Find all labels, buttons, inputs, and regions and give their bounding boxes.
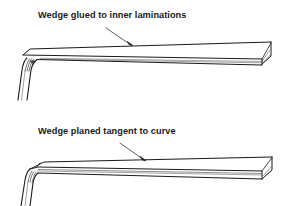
top-leader-line [106, 28, 131, 45]
bottom-wedge-board [21, 143, 272, 206]
laminated-wedge-drawing [0, 0, 285, 206]
top-wedge-board [18, 28, 271, 100]
bottom-leader-line [120, 143, 144, 160]
